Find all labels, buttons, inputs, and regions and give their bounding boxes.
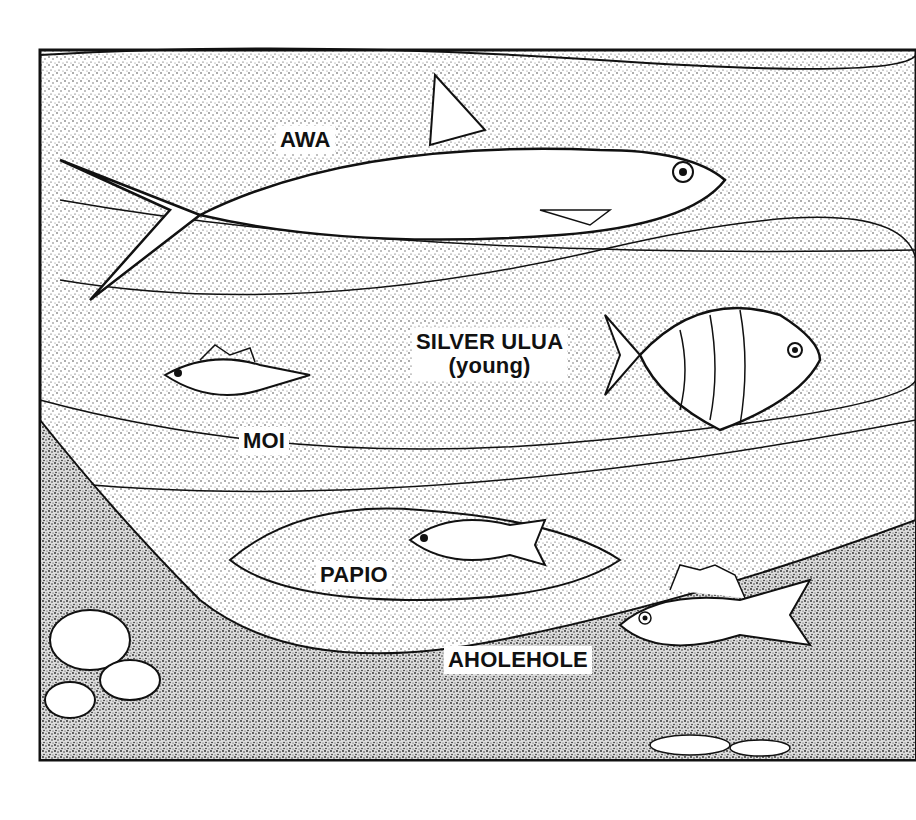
- label-silver-ulua-line2: (young): [416, 354, 563, 378]
- fish-illustration: [0, 0, 916, 820]
- label-papio: PAPIO: [316, 561, 392, 589]
- label-silver-ulua: SILVER ULUA (young): [412, 328, 567, 380]
- label-aholehole: AHOLEHOLE: [444, 646, 592, 674]
- label-moi: MOI: [239, 427, 289, 455]
- label-awa: AWA: [276, 126, 335, 154]
- label-silver-ulua-line1: SILVER ULUA: [416, 330, 563, 354]
